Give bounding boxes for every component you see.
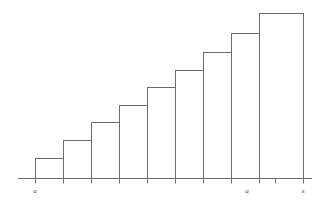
bar-rect xyxy=(64,141,92,179)
bar-rect xyxy=(260,14,304,179)
bar-rect xyxy=(120,106,148,179)
bar-rect xyxy=(232,34,260,179)
axis-label-2: x xyxy=(300,187,305,195)
bar-rect xyxy=(36,159,64,179)
axis-label-0: a xyxy=(33,187,37,195)
tick-marks-group xyxy=(36,179,304,184)
riemann-sum-figure: aax xyxy=(0,0,326,204)
figure-canvas: aax xyxy=(0,0,326,204)
bar-rect xyxy=(92,123,120,179)
bar-rect xyxy=(148,88,176,179)
axis-labels-group: aax xyxy=(33,187,305,195)
bar-rect xyxy=(204,53,232,179)
bar-rect xyxy=(176,71,204,179)
axis-label-1: a xyxy=(245,187,249,195)
bars-group xyxy=(36,14,304,179)
